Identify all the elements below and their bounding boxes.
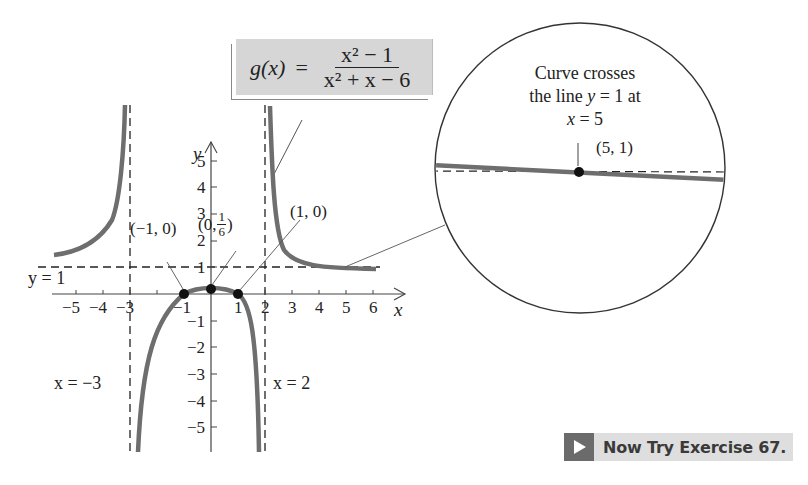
- curve-left-branch: [54, 105, 125, 255]
- y-tick-label: 1: [197, 258, 206, 277]
- y-tick-label: −1: [187, 312, 205, 331]
- x-tick-label: −3: [116, 298, 134, 317]
- point-label-neg1-0: (−1, 0): [130, 219, 176, 239]
- x-tick-label: 5: [342, 298, 351, 317]
- curve-right-branch: [270, 106, 376, 269]
- x-tick-label: −5: [62, 298, 80, 317]
- x-tick-label: 6: [369, 298, 378, 317]
- vertical-asymptote-left-label: x = −3: [54, 373, 101, 393]
- graph-canvas: −5 −4 −3 −1 1 2 3 4 5 6 x 5 4 3 2 1 −1 −…: [0, 0, 808, 485]
- point-label-fraction: 1 6: [217, 210, 226, 239]
- point-label-prefix: (0,: [198, 215, 216, 235]
- x-tick-label: 4: [315, 298, 324, 317]
- fraction-den: 6: [218, 225, 225, 239]
- callout-line-2: the line y = 1 at: [505, 85, 665, 108]
- formula-leader-line: [272, 120, 302, 178]
- y-tick-label: −5: [187, 418, 205, 437]
- vertical-asymptote-right-label: x = 2: [273, 373, 310, 393]
- point-label-1-0: (1, 0): [290, 202, 327, 222]
- play-arrow-icon: [564, 433, 594, 461]
- point-5-1: [574, 167, 584, 177]
- x-tick-label: −4: [89, 298, 108, 317]
- zoom-callout-text: Curve crosses the line y = 1 at x = 5: [505, 62, 665, 131]
- point-label-0-sixth: (0, 1 6 ): [198, 210, 233, 239]
- now-try-exercise-button[interactable]: Now Try Exercise 67.: [564, 433, 793, 461]
- callout-line-1: Curve crosses: [505, 62, 665, 85]
- x-tick-label: 3: [288, 298, 297, 317]
- point-label-suffix: ): [227, 215, 233, 235]
- now-try-exercise-label: Now Try Exercise 67.: [603, 438, 786, 457]
- x-tick-label: 1: [234, 298, 243, 317]
- point-1-0: [233, 289, 243, 299]
- y-tick-label: −2: [187, 338, 205, 357]
- y-axis-label: y: [191, 143, 202, 164]
- zoom-leader-line: [345, 225, 445, 267]
- callout-line-3: x = 5: [505, 108, 665, 131]
- point-neg1-0: [179, 289, 189, 299]
- point-label-5-1: (5, 1): [596, 138, 633, 158]
- y-tick-label: −4: [187, 392, 206, 411]
- leader-line: [167, 262, 183, 289]
- leader-line: [212, 251, 236, 285]
- point-0-sixth: [206, 284, 216, 294]
- horizontal-asymptote-label: y = 1: [28, 268, 65, 288]
- y-tick-label: −3: [187, 365, 205, 384]
- fraction-num: 1: [217, 210, 226, 225]
- y-tick-label: 4: [197, 178, 206, 197]
- x-tick-label: 2: [261, 298, 270, 317]
- x-axis-label: x: [393, 299, 403, 320]
